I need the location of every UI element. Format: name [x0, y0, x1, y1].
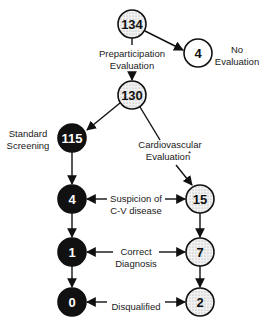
- label-text: Screening: [7, 140, 50, 151]
- node-value: 134: [121, 17, 143, 32]
- node-115: 115: [58, 124, 86, 152]
- node-value: 115: [62, 131, 83, 146]
- node-value: 7: [196, 245, 203, 260]
- label-text: C-V disease: [110, 205, 162, 216]
- label-text: Evaluation: [146, 151, 190, 162]
- node-4-standard: 4: [58, 185, 86, 213]
- node-value: 4: [68, 192, 76, 207]
- label-text: Diagnosis: [115, 258, 157, 269]
- node-value: 4: [194, 46, 202, 61]
- node-value: 1: [68, 245, 75, 260]
- label-cardiovascular-evaluation: Cardiovascular Evaluation *: [138, 139, 201, 162]
- label-text: Preparticipation: [99, 48, 165, 59]
- label-text: Correct: [120, 246, 152, 257]
- label-preparticipation: Preparticipation Evaluation: [99, 48, 165, 71]
- label-text: Cardiovascular: [138, 139, 201, 150]
- label-text: Disqualified: [111, 301, 160, 312]
- node-value: 2: [196, 295, 203, 310]
- label-text: Standard: [9, 128, 48, 139]
- label-disqualified: Disqualified: [111, 301, 160, 312]
- node-7: 7: [186, 238, 214, 266]
- label-correct-diagnosis: Correct Diagnosis: [115, 246, 157, 269]
- footnote-marker: *: [188, 149, 191, 158]
- edge-130-to-115: [87, 103, 120, 130]
- edge-130-to-15-upper: [140, 107, 160, 140]
- node-134: 134: [118, 10, 146, 38]
- node-1: 1: [58, 238, 86, 266]
- label-text: Evaluation: [110, 60, 154, 71]
- label-text: No: [231, 44, 243, 55]
- node-130: 130: [118, 81, 146, 109]
- node-0: 0: [58, 288, 86, 316]
- label-standard-screening: Standard Screening: [7, 128, 50, 151]
- node-15: 15: [186, 185, 214, 213]
- node-value: 15: [193, 192, 207, 207]
- node-value: 130: [121, 88, 143, 103]
- flowchart-diagram: 134 4 130 115 15 4 1 7 0 2 Preparticipat…: [0, 0, 275, 326]
- node-value: 0: [68, 295, 75, 310]
- label-text: Evaluation: [215, 56, 259, 67]
- node-no-evaluation: 4: [184, 39, 212, 67]
- label-no-evaluation: No Evaluation: [215, 44, 259, 67]
- node-2: 2: [186, 288, 214, 316]
- label-suspicion: Suspicion of C-V disease: [110, 193, 162, 216]
- edge-130-to-15-lower: [176, 165, 192, 185]
- label-text: Suspicion of: [110, 193, 162, 204]
